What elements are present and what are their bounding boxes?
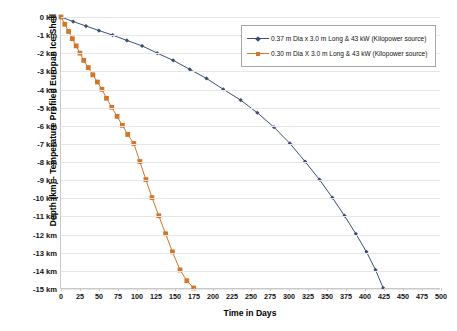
x-axis-tick-label: 150: [169, 292, 181, 301]
data-point-marker: [184, 278, 189, 283]
x-axis-tick: [61, 288, 62, 291]
data-point-marker: [70, 36, 75, 41]
x-axis-tick-label: 350: [321, 292, 333, 301]
x-axis-tick-label: 225: [226, 292, 238, 301]
data-point-marker: [171, 58, 175, 62]
y-axis-tick-label: -1 km: [37, 31, 57, 40]
data-point-marker: [140, 44, 144, 48]
series-line: [61, 17, 194, 288]
data-point-marker: [125, 38, 129, 42]
x-axis-tick-label: 175: [188, 292, 200, 301]
grid-line: [61, 71, 440, 72]
x-axis-tick: [137, 288, 138, 291]
grid-line: [61, 17, 440, 18]
x-axis-tick-label: 500: [435, 292, 447, 301]
grid-line: [61, 162, 440, 163]
data-point-marker: [115, 114, 120, 119]
y-axis-tick-label: -10 km: [33, 194, 57, 203]
x-axis-tick-label: 375: [340, 292, 352, 301]
grid-line: [61, 198, 440, 199]
data-point-marker: [97, 28, 101, 32]
x-axis-tick: [80, 288, 81, 291]
x-axis-tick-label: 100: [131, 292, 143, 301]
grid-line: [61, 216, 440, 217]
legend-item-series-2[interactable]: 0.30 m Dia X 3.0 m Long & 43 kW (Kilopow…: [247, 46, 428, 61]
y-axis-tick-label: -2 km: [37, 49, 57, 58]
x-axis-tick: [308, 288, 309, 291]
x-axis-tick: [403, 288, 404, 291]
y-axis-tick-label: -5 km: [37, 103, 57, 112]
x-axis-tick-label: 475: [416, 292, 428, 301]
x-axis-tick-label: 25: [76, 292, 84, 301]
x-axis-tick: [118, 288, 119, 291]
x-axis-tick: [422, 288, 423, 291]
x-axis-tick: [327, 288, 328, 291]
y-axis-tick-label: -7 km: [37, 139, 57, 148]
x-axis-tick: [156, 288, 157, 291]
grid-line: [61, 180, 440, 181]
y-axis-tick-label: -14 km: [33, 266, 57, 275]
x-axis-tick-label: 200: [207, 292, 219, 301]
x-axis-tick-label: 75: [114, 292, 122, 301]
x-axis-tick: [384, 288, 385, 291]
y-axis-tick-label: -11 km: [33, 212, 57, 221]
y-axis-title: Depth (km) - Temperature Profiled Europa…: [48, 0, 58, 265]
legend-marker-icon: [247, 49, 269, 59]
x-axis-tick-label: 425: [378, 292, 390, 301]
data-point-marker: [90, 72, 95, 77]
legend-marker-icon: [247, 34, 269, 44]
y-axis-tick-label: -13 km: [33, 248, 57, 257]
y-axis-tick-label: -12 km: [33, 230, 57, 239]
y-axis-tick-label: 0 km: [40, 13, 57, 22]
grid-line: [61, 271, 440, 272]
data-point-marker: [62, 22, 67, 27]
legend-item-series-1[interactable]: 0.37 m Dia x 3.0 m Long & 43 kW (Kilopow…: [247, 31, 428, 46]
x-axis-tick: [270, 288, 271, 291]
x-axis-tick: [213, 288, 214, 291]
data-point-marker: [104, 96, 109, 101]
data-point-marker: [95, 80, 100, 85]
x-axis-tick-label: 300: [283, 292, 295, 301]
x-axis-tick: [232, 288, 233, 291]
data-point-marker: [71, 19, 75, 23]
x-axis-tick-label: 400: [359, 292, 371, 301]
data-point-marker: [81, 58, 86, 63]
x-axis-tick: [99, 288, 100, 291]
x-axis-tick: [194, 288, 195, 291]
y-axis-tick-label: -15 km: [33, 285, 57, 294]
x-axis-tick-label: 0: [59, 292, 63, 301]
y-axis-tick-label: -9 km: [37, 176, 57, 185]
chart-legend: 0.37 m Dia x 3.0 m Long & 43 kW (Kilopow…: [241, 25, 436, 67]
legend-item-label: 0.37 m Dia x 3.0 m Long & 43 kW (Kilopow…: [269, 35, 426, 42]
grid-line: [61, 144, 440, 145]
x-axis-tick-label: 50: [95, 292, 103, 301]
x-axis-tick-label: 275: [264, 292, 276, 301]
legend-item-label: 0.30 m Dia X 3.0 m Long & 43 kW (Kilopow…: [269, 50, 428, 57]
x-axis-tick: [346, 288, 347, 291]
data-point-marker: [86, 65, 91, 70]
y-axis-tick-label: -4 km: [37, 85, 57, 94]
grid-line: [61, 90, 440, 91]
grid-line: [61, 126, 440, 127]
data-point-marker: [66, 29, 71, 34]
y-axis-tick-label: -8 km: [37, 158, 57, 167]
x-axis-tick-label: 250: [245, 292, 257, 301]
x-axis-tick: [365, 288, 366, 291]
x-axis-tick-label: 450: [397, 292, 409, 301]
data-point-marker: [84, 24, 88, 28]
x-axis-title: Time in Days: [60, 308, 440, 318]
grid-line: [61, 253, 440, 254]
x-axis-tick: [441, 288, 442, 291]
y-axis-tick-label: -6 km: [37, 121, 57, 130]
x-axis-tick-label: 325: [302, 292, 314, 301]
grid-line: [61, 108, 440, 109]
chart-container: Depth (km) - Temperature Profiled Europa…: [0, 0, 457, 331]
x-axis-tick: [251, 288, 252, 291]
x-axis-tick: [289, 288, 290, 291]
data-point-marker: [125, 132, 130, 137]
x-axis-tick-label: 125: [150, 292, 162, 301]
data-point-marker: [74, 44, 79, 49]
x-axis-tick: [175, 288, 176, 291]
grid-line: [61, 235, 440, 236]
y-axis-tick-label: -3 km: [37, 67, 57, 76]
